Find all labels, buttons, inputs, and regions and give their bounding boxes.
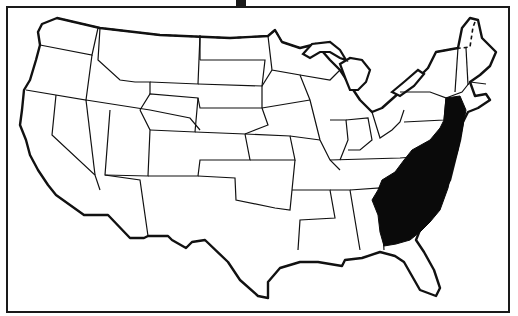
- highlighted-states-east-coast: [372, 96, 466, 246]
- us-map: [0, 0, 518, 316]
- great-lakes: [303, 42, 424, 96]
- canada-border: [57, 18, 318, 48]
